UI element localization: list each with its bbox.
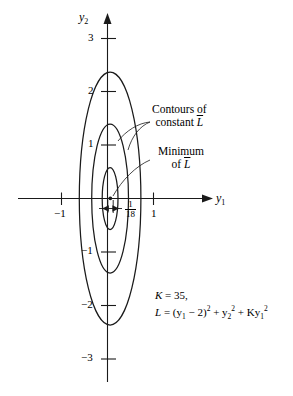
formula-sub-2: 2 [228, 312, 232, 321]
fraction-denominator: 18 [125, 210, 136, 219]
formula-block: K = 35, L = (y1 − 2)2 + y22 + Ky12 [155, 288, 268, 323]
formula-l-mid: − 2) [186, 306, 207, 318]
x-tick-label-neg1: −1 [54, 208, 66, 219]
y-tick-label-1: 1 [88, 138, 94, 149]
dimension-fraction-label: 1 18 [125, 200, 136, 220]
formula-sub-1b: 1 [260, 312, 264, 321]
formula-l-open: = (y [161, 306, 182, 318]
plot-canvas [0, 0, 293, 396]
x-axis [18, 193, 213, 206]
contour-plot-figure: y2 y1 3 2 1 −1 −2 −3 −1 1 1 18 Contours … [0, 0, 293, 396]
formula-sup-3: 2 [264, 304, 268, 313]
x-tick-label-pos1: 1 [151, 208, 157, 219]
y-axis-label: y2 [79, 11, 88, 26]
formula-l-plus2: + Ky [235, 306, 260, 318]
y-tick-label-2: 2 [88, 85, 94, 96]
annotation-minimum-line2: of [172, 158, 184, 170]
l-bar-symbol-contours: L [197, 116, 203, 128]
x-axis-label: y1 [216, 192, 225, 207]
minimum-point-marker [108, 196, 112, 200]
leader-line-minimum [113, 160, 150, 196]
annotation-contours-line1: Contours of [152, 103, 207, 115]
y-axis [101, 13, 116, 382]
x-axis-arrowhead [202, 195, 213, 203]
leader-line-contours-b [128, 122, 150, 150]
annotation-minimum-line1: Minimum [158, 145, 204, 157]
formula-line-k: K = 35, [155, 288, 268, 304]
annotation-minimum: Minimum of L [158, 145, 204, 171]
annotation-contours-line2: constant [156, 116, 197, 128]
formula-k-value: = 35, [162, 289, 187, 301]
y-tick-label-neg2: −2 [81, 299, 93, 310]
formula-l-plus1: + y [210, 306, 227, 318]
y-tick-label-neg1: −1 [81, 245, 93, 256]
y-tick-label-3: 3 [88, 32, 94, 43]
formula-line-l: L = (y1 − 2)2 + y22 + Ky12 [155, 304, 268, 323]
y-axis-arrowhead [104, 13, 112, 24]
annotation-contours: Contours of constant L [152, 103, 207, 129]
y-tick-label-neg3: −3 [81, 352, 93, 363]
l-bar-symbol-minimum: L [184, 158, 190, 170]
